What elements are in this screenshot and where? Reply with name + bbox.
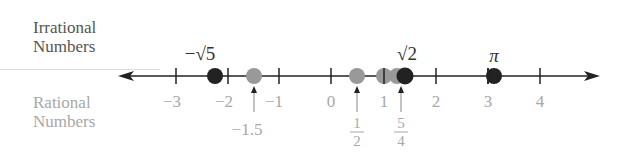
arrow-one-half-icon bbox=[354, 86, 360, 93]
tick-label-neg1: −1 bbox=[265, 92, 283, 111]
point-neg-sqrt5 bbox=[207, 68, 223, 84]
arrow-neg-1-5-icon bbox=[251, 86, 257, 93]
tick-label-3: 3 bbox=[484, 92, 493, 111]
point-neg-1-5 bbox=[246, 68, 262, 84]
arrow-five-fourths-icon bbox=[398, 86, 404, 93]
label-neg-sqrt5: −√5 bbox=[185, 43, 216, 64]
label-sqrt2: √2 bbox=[397, 43, 417, 64]
frac-half-den: 2 bbox=[353, 133, 361, 149]
tick-label-4: 4 bbox=[536, 92, 545, 111]
label-neg-1-5: −1.5 bbox=[232, 120, 263, 139]
number-line: −√5 √2 π −3 −2 −1 0 1 2 3 4 −1.5 1 2 5 4 bbox=[0, 0, 620, 156]
label-pi: π bbox=[489, 45, 499, 66]
tick-label-0: 0 bbox=[327, 92, 336, 111]
tick-label-neg2: −2 bbox=[215, 92, 233, 111]
tick-label-1: 1 bbox=[380, 92, 389, 111]
tick-label-neg3: −3 bbox=[163, 92, 181, 111]
point-one-half bbox=[349, 68, 365, 84]
frac-five-fourths-num: 5 bbox=[397, 115, 405, 131]
frac-half-num: 1 bbox=[353, 115, 361, 131]
tick-label-2: 2 bbox=[432, 92, 441, 111]
frac-five-fourths-den: 4 bbox=[397, 133, 405, 149]
point-sqrt2 bbox=[397, 68, 414, 85]
